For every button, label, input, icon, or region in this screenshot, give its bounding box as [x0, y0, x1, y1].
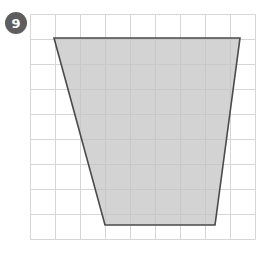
trapezoid-shape: [54, 38, 240, 225]
figure-stage: [0, 0, 267, 259]
worksheet-figure-canvas: 9: [0, 0, 267, 259]
geometry-figure-svg: [0, 0, 267, 259]
